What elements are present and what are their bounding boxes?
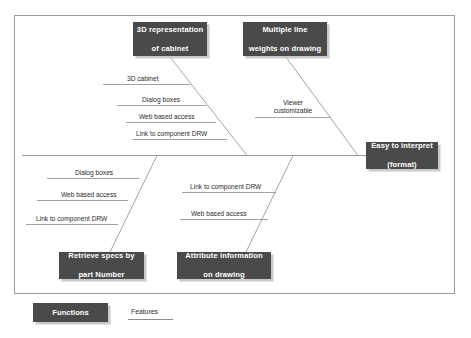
- effect-box-easy-to-interpret[interactable]: Easy to interpret (format): [366, 142, 438, 169]
- feature-label-web-based-access-bl: Web based access: [61, 191, 117, 199]
- feature-label-web-based-access-bm: Web based access: [191, 210, 247, 218]
- legend-functions-box[interactable]: Functions: [33, 303, 108, 322]
- category-box-line2: part Number: [62, 270, 141, 280]
- category-box-line1: Retrieve specs by: [62, 251, 141, 261]
- branch-bottom-left: [110, 156, 157, 253]
- category-box-line1: Multiple line: [246, 25, 324, 35]
- feature-label-line2: customizable: [274, 107, 312, 114]
- category-box-line1: 3D representation: [136, 25, 204, 35]
- legend-functions-label: Functions: [52, 308, 88, 317]
- category-box-multiple-line-weights-on-drawing[interactable]: Multiple line weights on drawing: [243, 22, 327, 56]
- feature-label-link-to-component-drw-bl: Link to component DRW: [36, 215, 107, 223]
- category-box-line2: of cabinet: [136, 44, 204, 54]
- category-box-3d-representation-of-cabinet[interactable]: 3D representation of cabinet: [133, 22, 207, 56]
- feature-label-viewer-customizable: Viewer customizable: [264, 99, 322, 115]
- effect-box-line1: Easy to interpret: [369, 141, 435, 151]
- feature-label-link-to-component-drw-tl: Link to component DRW: [136, 130, 207, 138]
- branch-bottom-middle: [246, 156, 293, 253]
- category-box-attribute-information-on-drawing[interactable]: Attribute information on drawing: [177, 252, 271, 279]
- category-box-line2: on drawing: [180, 270, 268, 280]
- category-box-retrieve-specs-by-part-number[interactable]: Retrieve specs by part Number: [59, 252, 144, 279]
- category-box-line2: weights on drawing: [246, 44, 324, 54]
- legend-features-underline: [128, 319, 173, 320]
- effect-box-line2: (format): [369, 160, 435, 170]
- branch-top-left: [170, 57, 247, 156]
- feature-label-web-based-access-tl: Web based access: [139, 113, 195, 121]
- diagram-canvas: 3D representation of cabinet Multiple li…: [0, 0, 471, 338]
- feature-label-line1: Viewer: [283, 99, 303, 106]
- feature-label-link-to-component-drw-bm: Link to component DRW: [190, 183, 261, 191]
- feature-label-dialog-boxes-bl: Dialog boxes: [75, 169, 113, 177]
- feature-label-dialog-boxes-tl: Dialog boxes: [142, 96, 180, 104]
- category-box-line1: Attribute information: [180, 251, 268, 261]
- feature-label-3d-cabinet: 3D cabinet: [127, 75, 159, 83]
- legend-features-label: Features: [131, 308, 158, 315]
